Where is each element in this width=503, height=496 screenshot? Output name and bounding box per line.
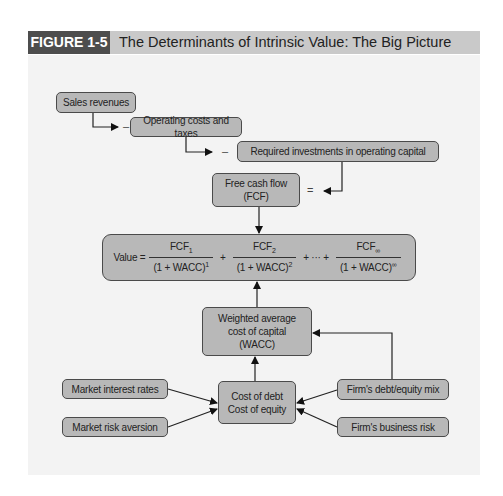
node-label-line1: Weighted average <box>218 312 296 325</box>
term-infinity: FCF∞ (1 + WACC)∞ <box>336 240 401 274</box>
node-label: Firm's business risk <box>351 421 434 434</box>
node-label: Market interest rates <box>72 383 159 396</box>
numerator: FCF <box>170 241 189 252</box>
node-label-line2: (FCF) <box>243 190 268 203</box>
node-label: Firm's debt/equity mix <box>347 383 440 396</box>
value-lhs: Value = <box>113 251 145 264</box>
node-wacc: Weighted average cost of capital (WACC) <box>202 307 312 356</box>
exponent: 1 <box>205 261 209 268</box>
subscript: ∞ <box>375 247 380 254</box>
node-label-line2: cost of capital <box>228 325 286 338</box>
plus-sign: + <box>220 251 226 264</box>
node-required-investments: Required investments in operating capita… <box>237 141 439 162</box>
subscript: 2 <box>272 247 276 254</box>
node-cost-of-debt-equity: Cost of debt Cost of equity <box>218 381 296 424</box>
node-sales-revenues: Sales revenues <box>56 92 136 113</box>
denominator: (1 + WACC) <box>237 263 289 274</box>
node-label-line1: Free cash flow <box>225 177 287 190</box>
node-firm-business-risk: Firm's business risk <box>337 417 449 437</box>
node-label: Market risk aversion <box>72 421 157 434</box>
term-2: FCF2 (1 + WACC)2 <box>233 240 297 274</box>
denominator: (1 + WACC) <box>153 263 205 274</box>
minus-sign: – <box>123 120 129 132</box>
node-label-line3: (WACC) <box>239 338 275 351</box>
exponent: 2 <box>288 261 292 268</box>
subscript: 1 <box>189 247 193 254</box>
node-label: Required investments in operating capita… <box>250 145 425 158</box>
node-label-line2: Cost of equity <box>228 403 286 416</box>
numerator: FCF <box>253 241 272 252</box>
numerator: FCF <box>356 241 375 252</box>
node-label: Sales revenues <box>63 96 129 109</box>
node-firm-debt-equity-mix: Firm's debt/equity mix <box>337 379 449 400</box>
equals-sign: = <box>307 184 313 196</box>
node-market-risk-aversion: Market risk aversion <box>62 417 168 437</box>
node-value-equation: Value = FCF1 (1 + WACC)1 + FCF2 (1 + WAC… <box>102 234 416 281</box>
node-label-line1: Cost of debt <box>231 390 283 403</box>
node-label: Operating costs and taxes <box>131 114 241 140</box>
value-formula: Value = FCF1 (1 + WACC)1 + FCF2 (1 + WAC… <box>113 240 404 274</box>
ellipsis: + ··· + <box>303 251 329 264</box>
exponent: ∞ <box>392 261 397 268</box>
term-1: FCF1 (1 + WACC)1 <box>149 240 213 274</box>
node-market-interest-rates: Market interest rates <box>62 379 168 399</box>
node-free-cash-flow: Free cash flow (FCF) <box>212 173 300 207</box>
minus-sign: – <box>222 145 228 157</box>
denominator: (1 + WACC) <box>340 263 392 274</box>
node-operating-costs: Operating costs and taxes <box>130 117 242 137</box>
